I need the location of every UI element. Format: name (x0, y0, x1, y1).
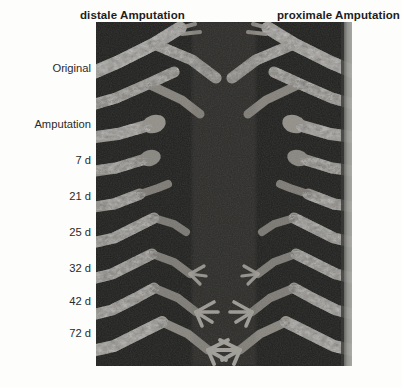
column-header-distal: distale Amputation (80, 9, 185, 22)
row-label-amputation: Amputation (34, 118, 91, 131)
row-label-original: Original (52, 62, 91, 75)
radiograph-image (96, 22, 352, 366)
row-label-d32: 32 d (69, 262, 91, 275)
row-label-d21: 21 d (69, 190, 91, 203)
row-label-d72: 72 d (69, 327, 91, 340)
figure-root: distale Amputation proximale Amputation … (0, 0, 402, 387)
panel-edge-strip (344, 22, 352, 366)
row-label-d42: 42 d (69, 295, 91, 308)
radiograph-panel (96, 22, 352, 366)
column-header-proximal: proximale Amputation (277, 9, 400, 22)
row-label-d7: 7 d (75, 154, 91, 167)
row-label-d25: 25 d (69, 226, 91, 239)
